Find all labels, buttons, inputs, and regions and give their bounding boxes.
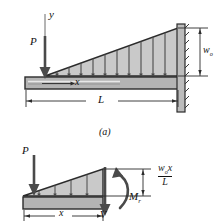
load-intensity-numerator: wox xyxy=(158,163,172,176)
peak-load-symbol: w xyxy=(203,44,210,55)
beam-body xyxy=(25,77,178,89)
x-dimension xyxy=(24,210,103,221)
moment-label: Mr xyxy=(129,191,141,205)
moment-subscript: r xyxy=(138,197,141,204)
top-panel-graphic xyxy=(0,0,218,120)
load-numerator-variable: x xyxy=(168,162,172,173)
load-numerator-symbol: w xyxy=(158,162,165,173)
moment-symbol: M xyxy=(129,190,138,202)
y-axis-label: y xyxy=(49,9,54,20)
shear-label: V xyxy=(100,210,106,220)
moment-arrow-arc xyxy=(117,173,128,208)
bottom-panel-graphic xyxy=(0,143,218,223)
point-load-label-fbd: P xyxy=(22,145,29,156)
point-load-label-top: P xyxy=(30,36,37,47)
span-label: L xyxy=(98,94,104,105)
mechanics-figure: y P x L wo (a) xyxy=(0,0,218,223)
distributed-load-region xyxy=(45,28,178,76)
distance-label-top: x xyxy=(75,77,79,87)
distance-label-fbd: x xyxy=(59,208,63,218)
wall-hatching xyxy=(185,24,189,108)
load-intensity-expression: wox L xyxy=(158,163,172,187)
peak-load-label: wo xyxy=(203,45,213,57)
load-intensity-denominator: L xyxy=(158,176,172,188)
panel-caption-a: (a) xyxy=(99,126,111,137)
peak-load-subscript: o xyxy=(210,50,213,57)
